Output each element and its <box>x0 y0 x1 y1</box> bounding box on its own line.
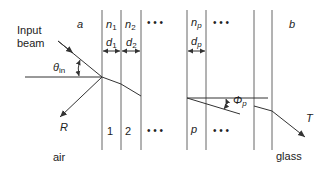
ellipsis-top-left: • • • <box>147 17 164 28</box>
np-label: np <box>191 16 202 30</box>
left-rays <box>25 41 141 117</box>
ellipsis-top-right: • • • <box>213 17 230 28</box>
layer-index-1: 1 <box>107 125 113 137</box>
phi-p-label: Φp <box>233 94 247 108</box>
theta-angle-arc-icon <box>78 60 80 76</box>
transmitted-label: T <box>306 112 314 124</box>
medium-a-label: a <box>77 18 83 30</box>
multilayer-thin-film-diagram: Input beam a b θin R T air glass Φp n1 n… <box>0 0 324 173</box>
incident-beam-arrow-icon <box>58 41 73 53</box>
ellipsis-bottom-right: • • • <box>213 125 230 136</box>
transmitted-beam <box>254 106 305 137</box>
phi-angle-arc-icon <box>224 99 227 109</box>
layer-index-p: p <box>190 123 197 135</box>
reflected-label: R <box>60 121 68 133</box>
input-beam-label-line2: beam <box>17 37 45 49</box>
medium-b-label: b <box>289 18 295 30</box>
reflected-beam <box>60 77 102 117</box>
input-beam-label-line1: Input <box>17 24 41 36</box>
air-label: air <box>53 151 66 163</box>
n2-label: n2 <box>125 18 136 32</box>
theta-in-label: θin <box>53 61 65 75</box>
ellipsis-bottom-left: • • • <box>147 125 164 136</box>
n1-label: n1 <box>106 18 117 32</box>
dp-label: dp <box>191 35 202 49</box>
glass-label: glass <box>276 150 302 162</box>
d2-label: d2 <box>126 36 137 50</box>
d1-label: d1 <box>106 36 117 50</box>
text-labels: Input beam a b θin R T air glass Φp n1 n… <box>17 16 314 163</box>
layer-index-2: 2 <box>125 125 131 137</box>
